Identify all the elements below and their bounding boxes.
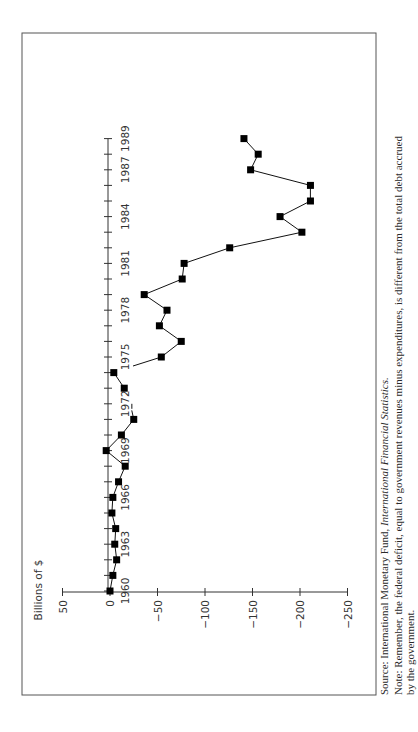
source-line: Source: International Monetary Fund, Int… bbox=[378, 377, 390, 695]
value-tick-label: −150 bbox=[247, 600, 259, 629]
year-tick-label: 1987 bbox=[119, 156, 131, 183]
data-point-marker bbox=[109, 572, 116, 579]
year-tick-label: 1984 bbox=[119, 203, 131, 230]
value-axis: 500−50−100−150−200−250 bbox=[57, 588, 354, 629]
data-point-marker bbox=[109, 494, 116, 501]
data-point-marker bbox=[111, 541, 118, 548]
data-point-marker bbox=[158, 354, 165, 361]
data-point-marker bbox=[107, 588, 114, 595]
year-tick-label: 1960 bbox=[119, 578, 131, 605]
data-point-marker bbox=[115, 478, 122, 485]
chart-frame bbox=[22, 33, 376, 695]
deficit-series bbox=[103, 135, 314, 594]
note-line-1: Note: Remember, the federal deficit, equ… bbox=[392, 136, 404, 695]
data-point-marker bbox=[178, 338, 185, 345]
value-tick-label: −200 bbox=[294, 600, 306, 629]
series-stub-1975 bbox=[133, 357, 161, 366]
data-point-marker bbox=[255, 151, 262, 158]
year-tick-label: 1963 bbox=[119, 531, 131, 558]
deficit-chart: 500−50−100−150−200−250 19601963196619691… bbox=[0, 0, 418, 732]
value-tick-label: 50 bbox=[57, 600, 69, 613]
data-point-marker bbox=[298, 229, 305, 236]
data-point-marker bbox=[121, 385, 128, 392]
data-point-marker bbox=[277, 213, 284, 220]
year-axis: 1960196319661969197219751978198119841987… bbox=[104, 125, 131, 604]
note-line-2: by the government. bbox=[404, 610, 416, 695]
data-point-marker bbox=[110, 369, 117, 376]
y-axis-label: Billions of $ bbox=[32, 560, 44, 621]
year-tick-label: 1969 bbox=[119, 437, 131, 464]
data-point-marker bbox=[307, 182, 314, 189]
year-tick-label: 1972 bbox=[119, 390, 131, 417]
year-tick-label: 1975 bbox=[119, 344, 131, 371]
year-tick-label: 1989 bbox=[119, 125, 131, 152]
data-point-marker bbox=[156, 322, 163, 329]
source-text: Source: International Monetary Fund, bbox=[378, 526, 390, 695]
caption: Source: International Monetary Fund, Int… bbox=[378, 136, 416, 695]
value-tick-label: −50 bbox=[152, 600, 164, 622]
value-tick-label: 0 bbox=[104, 600, 116, 607]
data-point-marker bbox=[130, 416, 137, 423]
data-point-marker bbox=[141, 291, 148, 298]
value-tick-label: −250 bbox=[342, 600, 354, 629]
data-point-marker bbox=[181, 260, 188, 267]
data-point-marker bbox=[179, 276, 186, 283]
year-tick-label: 1978 bbox=[119, 297, 131, 324]
data-point-marker bbox=[240, 135, 247, 142]
year-tick-label: 1981 bbox=[119, 250, 131, 277]
year-tick-label: 1966 bbox=[119, 484, 131, 511]
data-point-marker bbox=[307, 198, 314, 205]
data-point-marker bbox=[108, 510, 115, 517]
data-point-marker bbox=[118, 432, 125, 439]
value-tick-label: −100 bbox=[199, 600, 211, 629]
data-point-marker bbox=[226, 244, 233, 251]
data-point-marker bbox=[112, 525, 119, 532]
data-point-marker bbox=[122, 463, 129, 470]
source-publication: International Financial Statistics. bbox=[378, 377, 390, 527]
data-point-marker bbox=[113, 556, 120, 563]
data-point-marker bbox=[164, 307, 171, 314]
data-point-marker bbox=[247, 166, 254, 173]
data-point-marker bbox=[103, 447, 110, 454]
